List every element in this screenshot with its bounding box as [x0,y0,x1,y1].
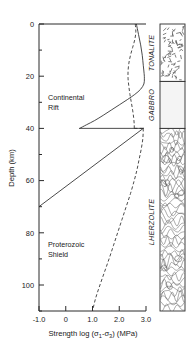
curve-proterozoic-shield [93,128,144,311]
curve-continental-rift [39,128,143,206]
proterozoic-shield-label-line2: Shield [48,250,68,259]
x-axis-tick-labels: -1.0 0 1.0 2.0 3.0 [33,315,152,324]
y-tick-label: 100 [22,281,34,290]
y-axis-tick-labels: 0 20 40 60 80 100 [22,20,34,290]
gabbro-layer-box [160,81,185,128]
y-tick-label: 60 [26,176,34,185]
lithology-column [160,24,185,312]
stipple-mark [178,61,180,62]
x-axis-title-pre: Strength log ( [48,329,94,338]
x-axis-title: Strength log (σ1-σ3) (MPa) [48,329,138,339]
x-tick-label: 0 [64,315,68,324]
y-tick-label: 20 [26,72,34,81]
figure-canvas: 0 20 40 60 80 100 Depth (km) -1.0 0 1.0 … [0,0,193,356]
x-tick-label: -1.0 [33,315,46,324]
curve-continental-rift [80,24,145,128]
y-tick-label: 0 [30,20,34,29]
curves-group [39,24,144,311]
strength-profile-figure: 0 20 40 60 80 100 Depth (km) -1.0 0 1.0 … [0,0,193,356]
x-axis-title-post: ) (MPa) [112,329,138,338]
x-tick-label: 3.0 [141,315,151,324]
y-tick-label: 80 [26,229,34,238]
tonalite-label: TONALITE [147,35,156,72]
y-axis-title: Depth (km) [7,149,16,187]
curve-proterozoic-shield [128,24,136,128]
stipple-mark [176,41,177,43]
continental-rift-label-line2: Rift [48,103,59,112]
proterozoic-shield-label-line1: Proterozoic [48,240,85,249]
gabbro-label: GABBRO [147,89,156,121]
proterozoic-shield-label: Proterozoic Shield [48,240,85,259]
continental-rift-label: Continental Rift [48,93,85,112]
continental-rift-label-line1: Continental [48,93,85,102]
y-axis-ticks [39,24,44,311]
lherzolite-label: LHERZOLITE [147,199,156,245]
y-tick-label: 40 [26,124,34,133]
x-tick-label: 2.0 [114,315,124,324]
plot-frame [39,24,146,311]
x-tick-label: 1.0 [87,315,97,324]
